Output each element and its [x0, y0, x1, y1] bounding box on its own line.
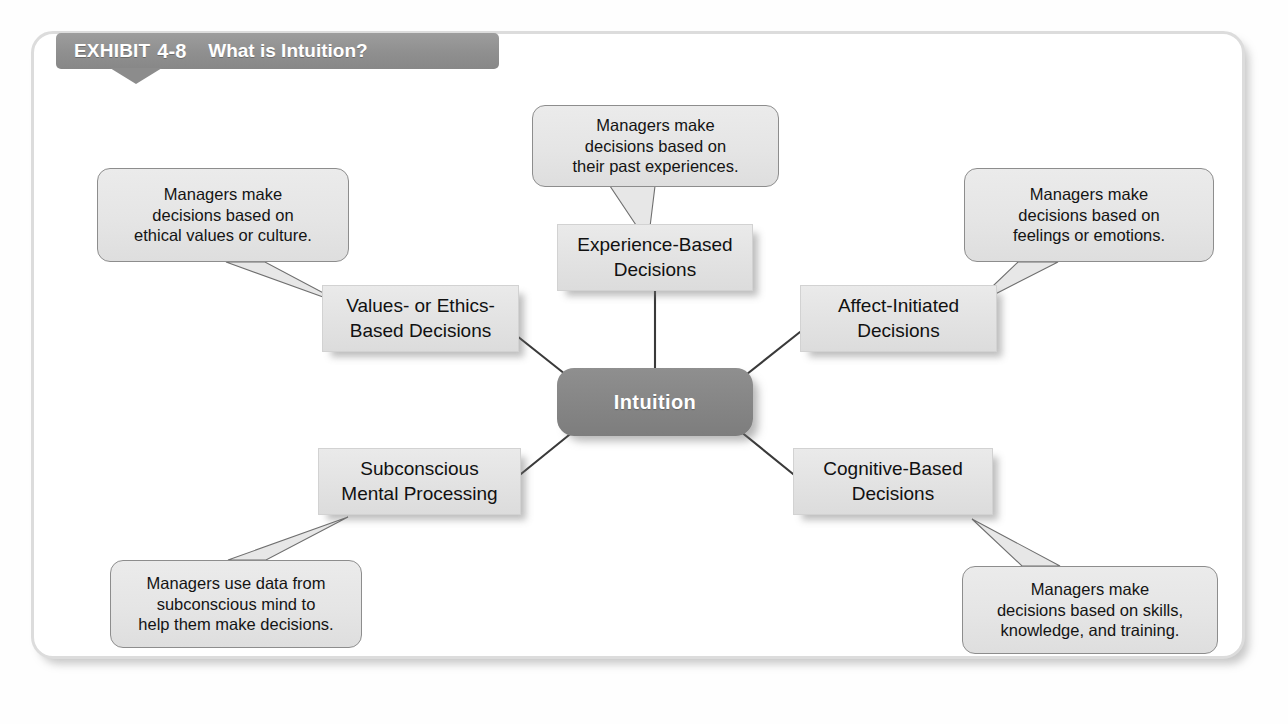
node-affect-initiated-label: Affect-InitiatedDecisions [838, 294, 959, 343]
callout-values-text: Managers makedecisions based onethical v… [134, 184, 312, 246]
callout-values[interactable]: Managers makedecisions based onethical v… [97, 168, 349, 262]
node-experience-based-label: Experience-BasedDecisions [577, 233, 732, 282]
node-values-ethics-based-label: Values- or Ethics-Based Decisions [346, 294, 495, 343]
callout-experience-text: Managers makedecisions based ontheir pas… [572, 115, 738, 177]
center-node-label: Intuition [614, 391, 696, 414]
node-experience-based[interactable]: Experience-BasedDecisions [557, 224, 753, 291]
node-cognitive-based-label: Cognitive-BasedDecisions [823, 457, 962, 506]
node-subconscious-label: SubconsciousMental Processing [341, 457, 497, 506]
callout-subconscious-text: Managers use data fromsubconscious mind … [138, 573, 333, 635]
exhibit-label: EXHIBIT [74, 40, 150, 62]
callout-subconscious[interactable]: Managers use data fromsubconscious mind … [110, 560, 362, 648]
header-tab-notch [110, 68, 162, 84]
node-affect-initiated[interactable]: Affect-InitiatedDecisions [800, 285, 997, 352]
exhibit-title: What is Intuition? [208, 40, 367, 62]
callout-cognitive-text: Managers makedecisions based on skills,k… [997, 579, 1183, 641]
node-subconscious-mental-processing[interactable]: SubconsciousMental Processing [318, 448, 521, 515]
exhibit-stage: EXHIBIT 4-8 What is Intuition? [0, 0, 1288, 724]
callout-cognitive[interactable]: Managers makedecisions based on skills,k… [962, 566, 1218, 654]
callout-affect-text: Managers makedecisions based onfeelings … [1013, 184, 1165, 246]
exhibit-header-tab: EXHIBIT 4-8 What is Intuition? [56, 33, 499, 69]
exhibit-number: 4-8 [157, 40, 186, 63]
center-node-intuition[interactable]: Intuition [557, 368, 753, 436]
node-cognitive-based[interactable]: Cognitive-BasedDecisions [793, 448, 993, 515]
callout-experience[interactable]: Managers makedecisions based ontheir pas… [532, 105, 779, 187]
node-values-ethics-based[interactable]: Values- or Ethics-Based Decisions [322, 285, 519, 352]
callout-affect[interactable]: Managers makedecisions based onfeelings … [964, 168, 1214, 262]
